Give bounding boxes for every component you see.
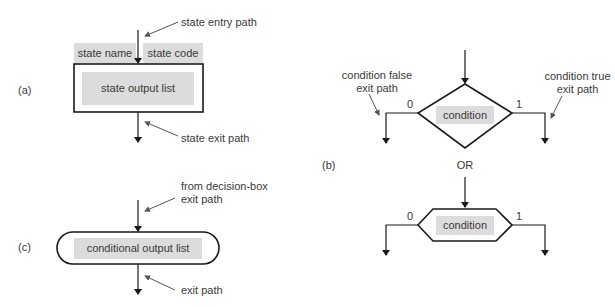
state-name-label: state name [74,43,136,63]
hexagon-one-label: 1 [516,210,522,223]
hexagon-zero-label: 0 [407,210,413,223]
condition-false-label-line2: exit path [322,82,432,95]
panel-c-label: (c) [18,241,31,254]
state-exit-path-label: state exit path [181,132,250,145]
conditional-output-list-label: conditional output list [74,238,202,259]
or-label: OR [450,159,480,172]
state-output-list-label: state output list [82,72,194,105]
state-code-label: state code [143,43,203,63]
asm-chart-elements-diagram: state entry path state name state code s… [0,0,615,307]
from-decision-box-label-line2: exit path [181,193,223,206]
diamond-condition-label: condition [436,106,494,124]
condition-true-label-line2: exit path [540,83,615,96]
condition-true-label: condition true [540,70,615,83]
condition-false-label: condition false [322,69,432,82]
decision-diamond-group [369,50,562,148]
diamond-zero-label: 0 [407,98,413,111]
panel-a-label: (a) [18,84,31,97]
hexagon-condition-label: condition [436,216,494,235]
from-decision-box-label: from decision-box [181,180,268,193]
exit-path-label: exit path [181,284,223,297]
state-entry-path-label: state entry path [181,16,257,29]
diamond-one-label: 1 [516,98,522,111]
panel-b-label: (b) [322,159,335,172]
